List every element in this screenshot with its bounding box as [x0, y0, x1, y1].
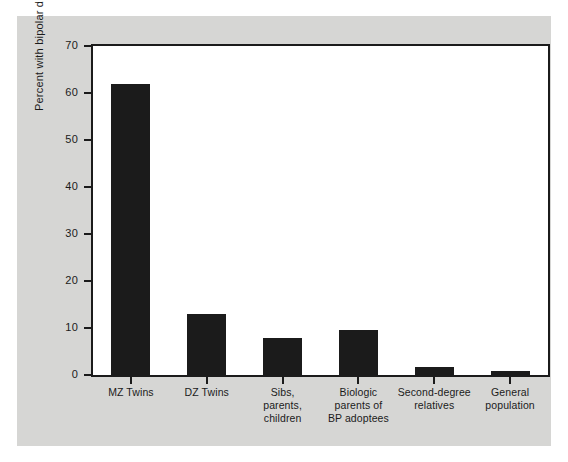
bar — [491, 371, 530, 375]
bar — [415, 367, 454, 375]
figure-page: Percent with bipolar disorder 0102030405… — [0, 0, 568, 462]
y-axis-tick — [84, 374, 91, 376]
y-axis-tick — [84, 45, 91, 47]
bar — [111, 84, 150, 375]
plot-frame — [91, 44, 550, 377]
x-axis-tick-label: Generalpopulation — [465, 386, 555, 412]
figure-panel: Percent with bipolar disorder 0102030405… — [17, 16, 551, 446]
x-axis-tick-label-line: BP adoptees — [313, 412, 403, 425]
y-axis-tick — [84, 92, 91, 94]
x-axis-tick-label-line: population — [465, 399, 555, 412]
y-axis-tick — [84, 186, 91, 188]
y-axis-tick-label: 60 — [52, 87, 78, 98]
bar — [187, 314, 226, 375]
y-axis-tick-label: 70 — [52, 40, 78, 51]
y-axis-tick — [84, 327, 91, 329]
y-axis-tick-label: 10 — [52, 322, 78, 333]
y-axis-tick-label: 30 — [52, 228, 78, 239]
bars-layer — [93, 46, 548, 375]
x-axis-tick-label-line: General — [465, 386, 555, 399]
y-axis-tick — [84, 233, 91, 235]
y-axis-title: Percent with bipolar disorder — [33, 0, 45, 111]
plot-area — [93, 46, 548, 375]
y-axis-tick — [84, 139, 91, 141]
y-axis-tick-label: 0 — [52, 369, 78, 380]
y-axis-tick-label: 40 — [52, 181, 78, 192]
bar — [339, 330, 378, 375]
y-axis-tick-label: 50 — [52, 134, 78, 145]
y-axis-tick — [84, 280, 91, 282]
y-axis-tick-label: 20 — [52, 275, 78, 286]
bar — [263, 338, 302, 375]
